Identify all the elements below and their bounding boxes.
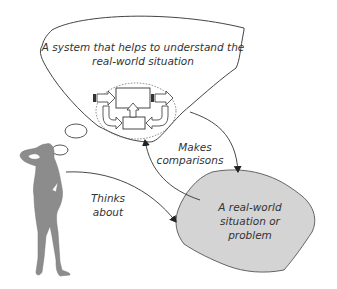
thought-bubble-large bbox=[65, 124, 87, 138]
diagram-canvas: A system that helps to understand the re… bbox=[0, 0, 337, 289]
cloud-text-line2: real-world situation bbox=[92, 55, 194, 67]
blob-text-line2: situation or bbox=[220, 215, 280, 227]
makes-comparisons-line2: comparisons bbox=[157, 154, 224, 166]
makes-comparisons-line1: Makes bbox=[178, 141, 212, 153]
thinks-about-line1: Thinks bbox=[91, 192, 126, 204]
cloud-text-line1: A system that helps to understand the bbox=[41, 41, 245, 53]
thought-bubble-small bbox=[52, 145, 68, 155]
thinks-about-line2: about bbox=[93, 206, 124, 218]
blob-text-line1: A real-world bbox=[217, 201, 282, 213]
person-figure bbox=[20, 143, 70, 276]
blob-text-line3: problem bbox=[227, 229, 272, 241]
